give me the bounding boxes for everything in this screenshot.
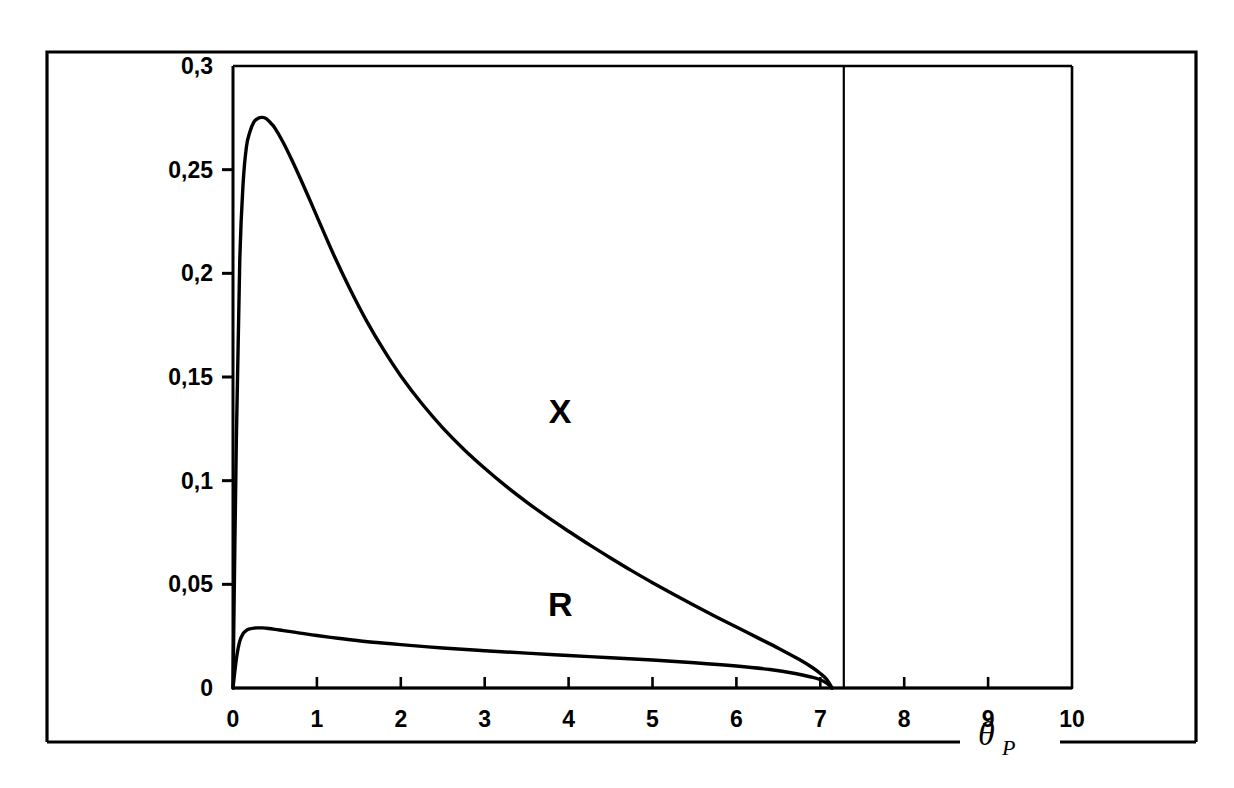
x-tick-label: 4: [562, 706, 575, 732]
data-curve-x: [233, 117, 832, 688]
data-curves-group: [233, 117, 1072, 688]
data-curve-r: [233, 628, 832, 688]
x-axis-title-subscript: P: [1001, 735, 1015, 760]
x-tick-label: 1: [311, 706, 324, 732]
x-axis-title-theta: θ: [978, 715, 995, 752]
y-tick-label: 0,2: [181, 260, 213, 286]
curve-label-r: R: [548, 585, 573, 623]
x-axis-title-group: θP: [978, 715, 1015, 760]
ticks-group: 00,050,10,150,20,250,3012345678910: [168, 53, 1085, 732]
y-tick-label: 0,05: [168, 571, 213, 597]
chart-canvas: 00,050,10,150,20,250,3012345678910XRθP: [0, 0, 1234, 788]
y-tick-label: 0,15: [168, 364, 213, 390]
plot-frame-group: [233, 66, 1072, 688]
figure-container: 00,050,10,150,20,250,3012345678910XRθP: [0, 0, 1234, 788]
outer-border-path: [47, 52, 1196, 742]
x-tick-label: 6: [730, 706, 743, 732]
x-tick-label: 5: [646, 706, 659, 732]
y-tick-label: 0,25: [168, 157, 213, 183]
y-tick-label: 0,3: [181, 53, 213, 79]
x-tick-label: 10: [1059, 706, 1085, 732]
x-tick-label: 8: [898, 706, 911, 732]
x-tick-label: 3: [478, 706, 491, 732]
y-tick-label: 0,1: [181, 468, 213, 494]
x-tick-label: 0: [227, 706, 240, 732]
y-tick-label: 0: [200, 675, 213, 701]
x-tick-label: 2: [394, 706, 407, 732]
annotations-group: XR: [548, 392, 573, 624]
outer-border-group: [47, 52, 1196, 742]
curve-label-x: X: [549, 392, 572, 430]
x-tick-label: 7: [814, 706, 827, 732]
